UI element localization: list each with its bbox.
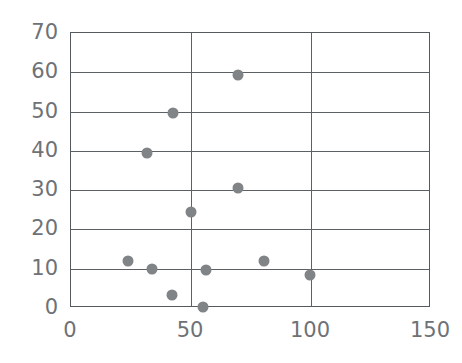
x-tick-label-150: 150 (410, 318, 450, 342)
x-tick-label-100: 100 (290, 318, 330, 342)
x-axis-tick-labels: 050100150 (0, 0, 462, 363)
scatter-chart: 010203040506070 050100150 (0, 0, 462, 363)
x-tick-label-0: 0 (63, 318, 76, 342)
x-tick-label-50: 50 (177, 318, 204, 342)
